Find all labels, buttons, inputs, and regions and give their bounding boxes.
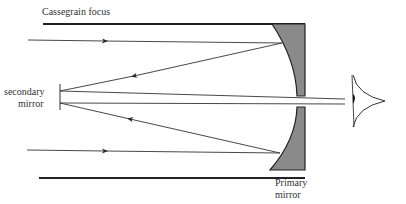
cassegrain-diagram bbox=[0, 0, 406, 204]
secondary-mirror-label-2: mirror bbox=[18, 98, 44, 109]
primary-mirror-label-2: mirror bbox=[275, 189, 301, 200]
primary-mirror-top bbox=[272, 24, 305, 96]
eye-icon bbox=[352, 75, 385, 127]
primary-mirror-label-1: Primary bbox=[275, 177, 307, 188]
primary-mirror-bottom bbox=[270, 107, 305, 170]
cassegrain-focus-label: Cassegrain focus bbox=[42, 6, 110, 17]
secondary-mirror-label-1: secondary bbox=[4, 86, 45, 97]
